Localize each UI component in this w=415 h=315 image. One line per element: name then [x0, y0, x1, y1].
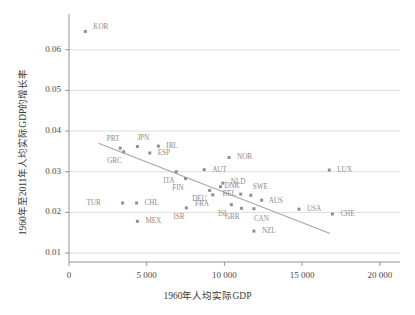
data-point-label: SWE [253, 183, 268, 191]
data-point-label: DNK [224, 182, 239, 190]
data-point [260, 199, 263, 202]
data-point [328, 169, 331, 172]
data-point-label: CAN [254, 215, 269, 223]
data-point [211, 193, 214, 196]
data-point [252, 207, 255, 210]
data-point [119, 147, 122, 150]
data-point [239, 193, 242, 196]
data-point [175, 170, 178, 173]
data-point [122, 150, 125, 153]
data-point-label: GRC [107, 157, 121, 165]
data-point-label: LUX [337, 166, 351, 174]
data-point-label: MEX [145, 217, 161, 225]
data-point-label: PRT [107, 135, 119, 143]
data-point [157, 145, 160, 148]
data-point [121, 202, 124, 205]
data-point-label: NZL [262, 227, 276, 235]
data-point-label: FRA [195, 200, 209, 208]
data-point-label: JPN [137, 134, 149, 142]
data-point [219, 185, 222, 188]
data-point [136, 220, 139, 223]
data-point-label: IRL [166, 142, 177, 150]
data-point [185, 206, 188, 209]
data-point-label: GBR [225, 213, 239, 221]
x-tick-label: 10 000 [194, 270, 254, 280]
data-point [252, 230, 255, 233]
data-point [297, 208, 300, 211]
data-point [240, 207, 243, 210]
data-point-label: ISR [173, 213, 184, 221]
data-point-label: BEL [223, 190, 236, 198]
scatter-chart: 0.010.020.030.040.050.06 05 00010 00015 … [0, 0, 415, 315]
data-point [230, 203, 233, 206]
data-point-label: USA [307, 205, 321, 213]
data-point-label: AUT [212, 166, 226, 174]
data-point [249, 194, 252, 197]
trend-line [99, 143, 331, 233]
x-tick-label: 5 000 [117, 270, 177, 280]
data-point-label: KOR [93, 23, 108, 31]
data-point [203, 168, 206, 171]
x-tick-label: 15 000 [272, 270, 332, 280]
data-point-label: FIN [172, 184, 183, 192]
data-point [208, 189, 211, 192]
y-axis-title: 1960年至2011年人均实际GDP的增长率 [15, 22, 29, 282]
data-point [135, 202, 138, 205]
data-point-label: NOR [237, 153, 252, 161]
data-point [148, 152, 151, 155]
data-point [331, 213, 334, 216]
data-point-label: CHE [340, 210, 354, 218]
data-point [136, 145, 139, 148]
data-point-label: ESP [158, 149, 170, 157]
data-point-label: CHL [145, 199, 159, 207]
plot-area [0, 0, 415, 315]
x-tick-label: 20 000 [350, 270, 410, 280]
x-tick-label: 0 [39, 270, 99, 280]
data-point [184, 177, 187, 180]
data-point [228, 156, 231, 159]
data-point-label: AUS [269, 197, 283, 205]
data-point [84, 30, 87, 33]
x-axis-title: 1960年人均实际GDP [0, 288, 415, 302]
data-point-label: TUR [87, 199, 101, 207]
